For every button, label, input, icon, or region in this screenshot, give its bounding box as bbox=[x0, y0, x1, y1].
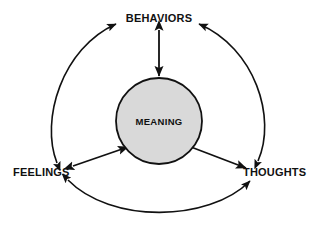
diagram-canvas: MEANING BEHAVIORS FEELINGS THOUGHTS bbox=[0, 0, 315, 240]
cycle-diagram: MEANING BEHAVIORS FEELINGS THOUGHTS bbox=[0, 0, 315, 240]
connector-feelings-behaviors-arc bbox=[51, 24, 116, 163]
connector-feelings-meaning bbox=[73, 147, 128, 166]
node-label-feelings: FEELINGS bbox=[13, 166, 70, 178]
node-label-thoughts: THOUGHTS bbox=[243, 166, 306, 178]
connector-feelings-thoughts-arc bbox=[68, 180, 250, 212]
connector-thoughts-behaviors-arc bbox=[199, 24, 265, 161]
meaning-label: MEANING bbox=[136, 116, 183, 127]
node-label-behaviors: BEHAVIORS bbox=[126, 12, 192, 24]
connector-thoughts-meaning bbox=[191, 147, 246, 168]
